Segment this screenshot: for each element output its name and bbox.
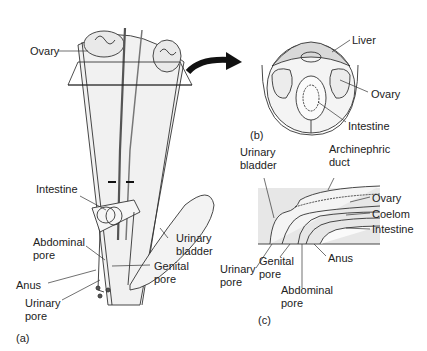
label-c-urinary-pore-1: Urinary — [220, 263, 255, 275]
label-a-abdominal-pore-2: pore — [33, 249, 55, 261]
label-c-abdominal-pore-1: Abdominal — [281, 284, 333, 296]
label-a-urinary-pore-2: pore — [25, 310, 47, 322]
label-c-urinary-bladder-2: bladder — [240, 159, 277, 171]
label-c-genital-pore-1: Genital — [259, 255, 294, 267]
panel-c-drawing — [258, 186, 380, 244]
curved-arrow-icon — [188, 60, 230, 72]
panel-label-a: (a) — [16, 332, 29, 344]
label-c-anus: Anus — [328, 252, 353, 264]
label-a-genital-pore-1: Genital — [154, 260, 189, 272]
label-c-intestine: Intestine — [372, 223, 414, 235]
label-a-urinary-pore-1: Urinary — [25, 297, 60, 309]
label-c-archinephric-duct-1: Archinephric — [329, 143, 390, 155]
label-c-abdominal-pore-2: pore — [281, 297, 303, 309]
label-c-urinary-pore-2: pore — [220, 276, 242, 288]
label-a-anus: Anus — [16, 279, 41, 291]
label-b-ovary: Ovary — [371, 88, 400, 100]
label-a-abdominal-pore-1: Abdominal — [33, 236, 85, 248]
label-c-ovary: Ovary — [372, 192, 401, 204]
label-c-coelom: Coelom — [372, 208, 410, 220]
label-a-urinary-bladder-2: bladder — [176, 245, 213, 257]
panel-b-drawing — [262, 42, 358, 135]
panel-label-b: (b) — [250, 129, 263, 141]
label-c-genital-pore-2: pore — [259, 268, 281, 280]
label-c-archinephric-duct-2: duct — [329, 156, 350, 168]
label-c-urinary-bladder-1: Urinary — [240, 146, 275, 158]
anatomy-illustration — [0, 0, 427, 351]
label-a-ovary: Ovary — [30, 45, 59, 57]
panel-label-c: (c) — [258, 314, 271, 326]
label-a-urinary-bladder-1: Urinary — [176, 232, 211, 244]
label-a-genital-pore-2: pore — [154, 273, 176, 285]
label-b-intestine: Intestine — [348, 120, 390, 132]
label-b-liver: Liver — [352, 34, 376, 46]
label-a-intestine: Intestine — [36, 183, 78, 195]
